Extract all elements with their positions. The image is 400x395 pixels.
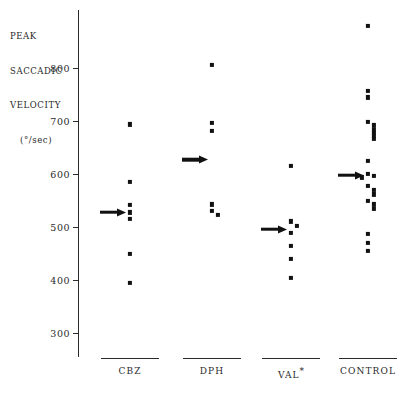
- group-bar-val: [262, 358, 320, 359]
- data-point: [289, 244, 293, 248]
- data-point: [372, 192, 376, 196]
- arrow-head-icon: [117, 208, 126, 216]
- mean-arrow-cbz: [100, 208, 126, 217]
- data-point: [366, 249, 370, 253]
- data-point: [128, 210, 132, 214]
- arrow-shaft: [338, 173, 356, 177]
- group-bar-cbz: [101, 358, 159, 359]
- y-tick-mark-800: [73, 68, 79, 69]
- y-tick-mark-600: [73, 174, 79, 175]
- data-point: [210, 121, 214, 125]
- data-point: [366, 120, 370, 124]
- y-tick-mark-500: [73, 227, 79, 228]
- y-tick-label-600: 600: [50, 169, 70, 180]
- data-point: [289, 257, 293, 261]
- y-tick-label-300: 300: [50, 328, 70, 339]
- data-point: [128, 203, 132, 207]
- y-tick-mark-700: [73, 121, 79, 122]
- arrow-shaft: [182, 158, 200, 162]
- data-point: [289, 231, 293, 235]
- data-point: [366, 172, 370, 176]
- data-point: [372, 207, 376, 211]
- group-bar-dph: [183, 358, 241, 359]
- data-point: [366, 159, 370, 163]
- group-label-control: CONTROL: [340, 366, 396, 376]
- data-point: [128, 252, 132, 256]
- data-point: [372, 174, 376, 178]
- data-point: [289, 164, 293, 168]
- data-point: [366, 24, 370, 28]
- group-label-val: VAL*: [278, 366, 304, 380]
- data-point: [210, 63, 214, 67]
- y-tick-label-400: 400: [50, 275, 70, 286]
- data-point: [366, 95, 370, 99]
- y-tick-label-800: 800: [50, 63, 70, 74]
- data-point: [295, 224, 299, 228]
- arrow-shaft: [100, 211, 118, 215]
- data-point: [128, 217, 132, 221]
- arrow-head-icon: [278, 225, 287, 233]
- y-tick-label-500: 500: [50, 222, 70, 233]
- data-point: [210, 129, 214, 133]
- data-point: [210, 202, 214, 206]
- significance-asterisk: *: [300, 366, 305, 376]
- data-point: [366, 89, 370, 93]
- data-point: [289, 219, 293, 223]
- y-tick-label-700: 700: [50, 116, 70, 127]
- data-point: [366, 184, 370, 188]
- group-label-dph: DPH: [200, 366, 224, 376]
- plot-area: 800700600500400300: [78, 10, 384, 357]
- data-point: [366, 241, 370, 245]
- arrow-head-icon: [355, 171, 364, 179]
- group-label-cbz: CBZ: [118, 366, 141, 376]
- y-tick-mark-400: [73, 280, 79, 281]
- data-point: [210, 209, 214, 213]
- group-bar-control: [339, 358, 397, 359]
- mean-arrow-control: [338, 171, 364, 180]
- data-point: [289, 276, 293, 280]
- data-point: [128, 122, 132, 126]
- arrow-head-icon: [199, 156, 208, 164]
- data-point: [372, 137, 376, 141]
- mean-arrow-dph: [182, 155, 208, 164]
- data-point: [372, 123, 376, 127]
- data-point: [372, 202, 376, 206]
- y-axis-line: [78, 10, 79, 357]
- mean-arrow-val: [261, 225, 287, 234]
- data-point: [216, 213, 220, 217]
- data-point: [128, 180, 132, 184]
- data-point: [366, 232, 370, 236]
- y-tick-mark-300: [73, 333, 79, 334]
- arrow-shaft: [261, 228, 279, 232]
- data-point: [366, 199, 370, 203]
- data-point: [128, 281, 132, 285]
- saccadic-velocity-scatter-figure: PEAK SACCADIC VELOCITY (°/sec) 800700600…: [0, 0, 400, 395]
